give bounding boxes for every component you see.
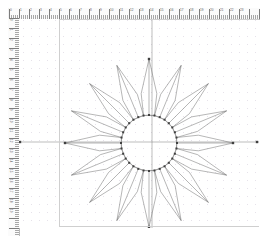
drawing-app-window: 01234567891011121314151617181920212223 0… bbox=[0, 0, 260, 249]
vertex-node[interactable] bbox=[125, 158, 127, 160]
ruler-tick-label: 1 bbox=[20, 9, 22, 12]
ruler-tick-label: 16 bbox=[170, 9, 173, 12]
vertex-node[interactable] bbox=[143, 115, 145, 117]
vertex-node[interactable] bbox=[128, 122, 130, 124]
vertex-node[interactable] bbox=[164, 119, 166, 121]
vertex-node[interactable] bbox=[171, 126, 173, 128]
ruler-tick-label: 12 bbox=[9, 139, 12, 142]
ruler-major-tick bbox=[249, 9, 250, 19]
vertex-node[interactable] bbox=[168, 122, 170, 124]
vertex-node[interactable] bbox=[174, 153, 176, 155]
vertex-node[interactable] bbox=[175, 147, 177, 149]
ruler-tick-label: 2 bbox=[9, 39, 12, 41]
vertex-node[interactable] bbox=[122, 131, 124, 133]
ruler-tick-label: 9 bbox=[100, 9, 102, 12]
vertex-node[interactable] bbox=[148, 114, 150, 116]
ruler-tick-label: 22 bbox=[230, 9, 233, 12]
ruler-tick-label: 19 bbox=[200, 9, 203, 12]
vertex-node[interactable] bbox=[171, 158, 173, 160]
ruler-tick-label: 18 bbox=[190, 9, 193, 12]
petal-spine[interactable] bbox=[90, 84, 130, 124]
ruler-tick-label: 6 bbox=[9, 79, 12, 81]
ruler-tick-label: 4 bbox=[9, 59, 12, 61]
center-circle-nodes[interactable] bbox=[120, 114, 178, 172]
ruler-tick-label: 11 bbox=[9, 129, 12, 132]
vertex-node[interactable] bbox=[120, 142, 122, 144]
petal-spine[interactable] bbox=[169, 84, 209, 124]
ruler-tick-label: 21 bbox=[220, 9, 223, 12]
anchor-node[interactable] bbox=[148, 226, 150, 228]
petal-group[interactable] bbox=[65, 59, 233, 227]
vertex-node[interactable] bbox=[159, 116, 161, 118]
vertex-node[interactable] bbox=[132, 119, 134, 121]
vertex-node[interactable] bbox=[132, 165, 134, 167]
vertex-node[interactable] bbox=[148, 170, 150, 172]
vertex-node[interactable] bbox=[176, 142, 178, 144]
ruler-tick-label: 19 bbox=[9, 209, 12, 212]
ruler-minor-tick bbox=[15, 234, 19, 235]
ruler-tick-label: 6 bbox=[70, 9, 72, 12]
ruler-tick-label: 18 bbox=[9, 199, 12, 202]
vertex-node[interactable] bbox=[153, 169, 155, 171]
vertex-node[interactable] bbox=[175, 137, 177, 139]
ruler-major-tick bbox=[9, 228, 19, 229]
vertex-node[interactable] bbox=[128, 162, 130, 164]
ruler-tick-label: 13 bbox=[140, 9, 143, 12]
ruler-tick-label: 12 bbox=[130, 9, 133, 12]
anchor-node[interactable] bbox=[256, 141, 258, 143]
vertex-node[interactable] bbox=[174, 131, 176, 133]
ruler-tick-label: 7 bbox=[80, 9, 82, 12]
ruler-tick-label: 2 bbox=[30, 9, 32, 12]
vertex-node[interactable] bbox=[122, 153, 124, 155]
ruler-major-tick bbox=[259, 9, 260, 19]
ruler-tick-label: 16 bbox=[9, 179, 12, 182]
ruler-tick-label: 1 bbox=[9, 29, 12, 31]
ruler-minor-tick bbox=[15, 232, 19, 233]
ruler-tick-label: 17 bbox=[180, 9, 183, 12]
ruler-tick-label: 23 bbox=[240, 9, 243, 12]
vertex-node[interactable] bbox=[168, 162, 170, 164]
ruler-tick-label: 14 bbox=[150, 9, 153, 12]
petal[interactable] bbox=[71, 148, 125, 175]
ruler-tick-label: 0 bbox=[10, 9, 12, 12]
vertex-node[interactable] bbox=[164, 165, 166, 167]
ruler-tick-label: 10 bbox=[110, 9, 113, 12]
ruler-tick-label: 5 bbox=[9, 69, 12, 71]
vertex-node[interactable] bbox=[137, 168, 139, 170]
ruler-tick-label: 5 bbox=[60, 9, 62, 12]
anchor-node[interactable] bbox=[19, 141, 21, 143]
ruler-tick-label: 13 bbox=[9, 149, 12, 152]
ruler-tick-label: 17 bbox=[9, 189, 12, 192]
petal[interactable] bbox=[172, 148, 226, 175]
anchor-node[interactable] bbox=[232, 142, 234, 144]
ruler-tick-label: 10 bbox=[9, 119, 12, 122]
ruler-tick-label: 0 bbox=[9, 19, 12, 21]
ruler-tick-label: 3 bbox=[9, 49, 12, 51]
ruler-major-tick bbox=[9, 218, 19, 219]
dot-grid bbox=[23, 20, 256, 221]
vertex-node[interactable] bbox=[159, 168, 161, 170]
ruler-tick-label: 3 bbox=[40, 9, 42, 12]
ruler-tick-label: 4 bbox=[50, 9, 52, 12]
anchor-node[interactable] bbox=[148, 58, 150, 60]
ruler-tick-label: 11 bbox=[120, 9, 123, 12]
vertex-node[interactable] bbox=[121, 137, 123, 139]
drawing-canvas[interactable] bbox=[19, 19, 259, 228]
vertex-node[interactable] bbox=[143, 169, 145, 171]
vertex-node[interactable] bbox=[153, 115, 155, 117]
petal-spine[interactable] bbox=[169, 163, 209, 203]
ruler-tick-label: 15 bbox=[160, 9, 163, 12]
ruler-tick-label: 20 bbox=[210, 9, 213, 12]
ruler-tick-label: 14 bbox=[9, 159, 12, 162]
ruler-tick-label: 8 bbox=[90, 9, 92, 12]
vertex-node[interactable] bbox=[121, 147, 123, 149]
rosette-mandala-artwork[interactable] bbox=[19, 19, 259, 228]
petal[interactable] bbox=[117, 166, 144, 220]
petal-spine[interactable] bbox=[90, 163, 130, 203]
ruler-tick-label: 9 bbox=[9, 109, 12, 111]
vertex-node[interactable] bbox=[137, 116, 139, 118]
petal[interactable] bbox=[117, 65, 144, 119]
anchor-node[interactable] bbox=[64, 142, 66, 144]
vertex-node[interactable] bbox=[125, 126, 127, 128]
canvas-viewport[interactable] bbox=[19, 19, 259, 228]
